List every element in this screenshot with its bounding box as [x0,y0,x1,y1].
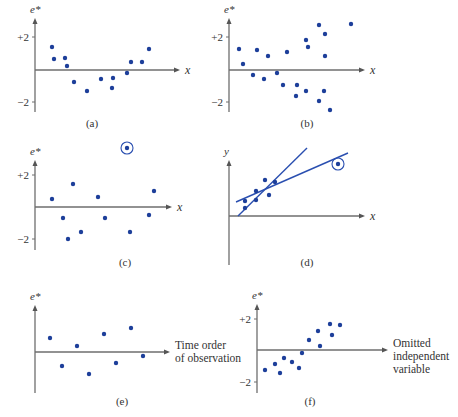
y-axis-arrow-icon [33,18,38,24]
data-point [330,333,334,337]
data-point [318,344,322,348]
y-tick-label: −2 [17,96,29,108]
data-point [237,47,241,51]
data-point [285,50,289,54]
data-point [128,230,132,234]
data-point [147,47,151,51]
data-point [322,89,326,93]
data-point [85,89,89,93]
x-axis-label: of observation [175,352,241,364]
y-tick-label: +2 [211,31,223,43]
data-point [71,182,75,186]
panel-c: e*x+2−2(c) [17,142,183,269]
data-point [243,199,247,203]
outlier-point [125,146,129,150]
data-point [297,366,301,370]
y-tick-label: −2 [211,96,223,108]
y-axis-label: e* [30,290,41,302]
y-axis-label: e* [30,145,41,157]
data-point [52,57,56,61]
x-axis-arrow-icon [382,348,388,353]
y-tick-label: +2 [239,313,251,325]
data-point [243,206,247,210]
x-axis-label: variable [393,363,430,375]
data-point [129,326,133,330]
data-point [72,80,76,84]
panel-a: e*x+2−2(a) [17,3,191,130]
x-axis-label: x [184,63,191,77]
y-tick-label: −2 [239,376,251,388]
data-point [87,372,91,376]
residual-plots-figure: e*x+2−2(a)e*x+2−2(b)e*x+2−2(c)yx(d)e*Tim… [0,0,458,417]
data-point [79,230,83,234]
panel-caption: (c) [119,256,132,269]
x-axis-arrow-icon [359,214,365,219]
x-axis-label: independent [393,350,450,363]
y-tick-label: −2 [17,233,29,245]
x-axis-arrow-icon [359,68,365,73]
data-point [267,193,271,197]
data-point [96,195,100,199]
data-point [111,76,115,80]
panel-d: yx(d) [223,145,376,269]
data-point [114,361,118,365]
x-axis-label: x [176,200,183,214]
x-axis-label: Omitted [393,337,431,349]
data-point [304,89,308,93]
data-point [323,32,327,36]
panel-caption: (b) [301,117,314,130]
data-point [338,323,342,327]
panel-caption: (a) [86,117,99,130]
data-point [273,362,277,366]
x-axis-arrow-icon [166,205,172,210]
data-point [300,351,304,355]
panel-caption: (d) [301,256,314,269]
data-point [254,198,258,202]
data-point [262,77,266,81]
data-point [147,213,151,217]
regression-line [236,153,348,202]
data-point [140,60,144,64]
data-point [254,189,258,193]
data-point [65,64,69,68]
data-point [50,45,54,49]
data-point [295,83,299,87]
data-point [125,71,129,75]
data-point [48,336,52,340]
x-axis-label: x [369,209,376,223]
data-point [241,62,245,66]
y-axis-label: e* [30,3,41,15]
y-axis-arrow-icon [33,160,38,166]
panel-caption: (e) [116,395,129,408]
y-axis-arrow-icon [33,305,38,311]
data-point [304,38,308,42]
data-point [66,237,70,241]
data-point [275,71,279,75]
y-axis-arrow-icon [255,304,260,310]
panel-e: e*Time orderof observation(e) [30,290,241,408]
y-axis-arrow-icon [227,18,232,24]
panel-caption: (f) [305,395,316,408]
data-point [110,86,114,90]
data-point [278,371,282,375]
data-point [141,354,145,358]
y-tick-label: +2 [17,31,29,43]
data-point [263,368,267,372]
data-point [75,344,79,348]
data-point [266,54,270,58]
data-point [61,216,65,220]
data-point [255,48,259,52]
y-axis-label: e* [252,289,263,301]
panel-b: e*x+2−2(b) [211,3,376,130]
data-point [317,23,321,27]
data-point [152,189,156,193]
panel-f: e*Omittedindependentvariable+2−2(f) [239,289,450,408]
x-axis-label: x [369,63,376,77]
outlier-point [336,162,340,166]
data-point [307,338,311,342]
regression-line [238,148,307,216]
data-point [282,356,286,360]
data-point [290,360,294,364]
data-point [60,364,64,368]
data-point [306,45,310,49]
